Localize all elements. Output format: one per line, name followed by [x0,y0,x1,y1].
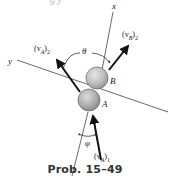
phi-arc [81,134,97,136]
vB2-arrow [109,46,128,70]
vA2-label: (vA)2 [34,45,50,55]
ball-a-label: A [102,100,108,109]
theta-arc-right [92,53,110,63]
theta-arc [64,53,80,66]
ball-b [86,67,108,89]
cut-off-text: g y [50,0,62,5]
x-axis-label: x [112,2,116,11]
y-axis-label: y [8,57,12,66]
ball-b-label: B [110,77,116,86]
phi-label: φ [85,139,90,148]
problem-caption: Prob. 15–49 [0,163,170,176]
theta-label: θ [82,47,86,56]
collision-diagram: g y [0,0,170,176]
vB2-label: (vB)2 [122,31,138,41]
vA2-arrow [57,60,80,92]
ball-a [78,89,100,111]
diagram-svg [0,0,170,176]
vA1-label: (vA)1 [94,153,110,163]
